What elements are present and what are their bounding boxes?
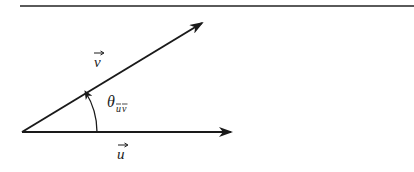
vector-v-arrow (22, 23, 202, 132)
theta-subscript-u: u (116, 103, 121, 114)
vector-v-text: v (94, 54, 101, 70)
theta-subscript-v: v (122, 103, 127, 114)
vector-angle-diagram: v u θ u v (0, 0, 414, 172)
theta-symbol: θ (107, 93, 115, 110)
angle-label: θ u v (107, 93, 128, 114)
vector-u-label: u (117, 143, 128, 162)
vector-v-label: v (94, 51, 104, 70)
angle-arc-icon (86, 92, 98, 132)
vector-u-text: u (117, 146, 125, 162)
